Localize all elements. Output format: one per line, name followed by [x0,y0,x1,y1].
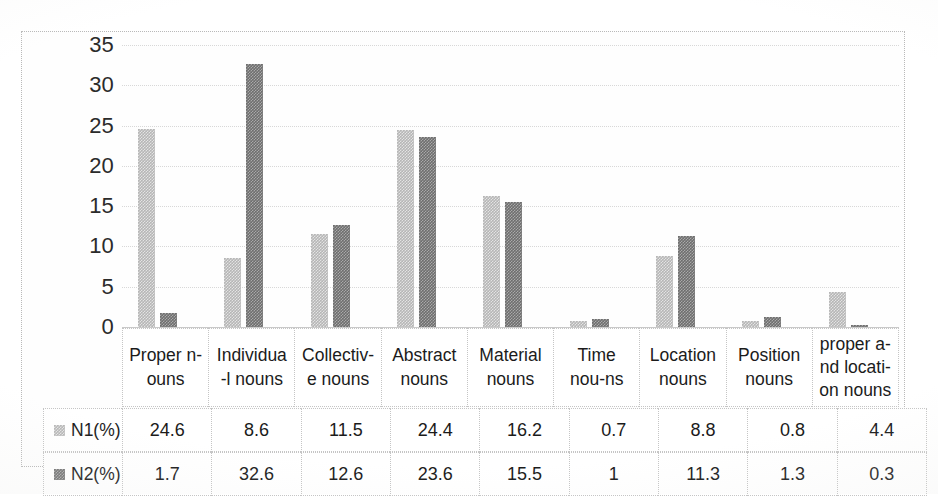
y-axis-tick-5: 5 [102,276,114,298]
bar-n1 [311,234,328,327]
table-cell: 4.4 [837,408,927,452]
table-cell: 11.5 [301,408,390,452]
plot-area [122,45,899,327]
table-cell: 12.6 [301,452,390,496]
data-table: N1(%)24.68.611.524.416.20.78.80.84.4N2(%… [43,408,927,496]
bars-layer [122,45,899,327]
table-row: N2(%)1.732.612.623.615.5111.31.30.3 [43,452,927,496]
legend-entry: N1(%) [43,408,122,452]
category-label-cell: Timenou-ns [553,328,639,407]
table-cell: 23.6 [390,452,479,496]
bar-n1 [397,130,414,327]
table-cell: 24.4 [390,408,479,452]
legend-label: N2(%) [71,464,121,485]
bar-n2 [333,225,350,327]
table-cell: 8.8 [658,408,747,452]
category-label-cell: Collectiv-e nouns [294,328,380,407]
bar-n2 [851,325,868,327]
bar-n1 [570,321,587,327]
table-cell: 1.3 [747,452,836,496]
bar-group [467,45,553,327]
bar-n2 [246,64,263,327]
bar-n2 [592,319,609,327]
category-label-cell: Materialnouns [467,328,553,407]
table-cell: 0.7 [569,408,658,452]
bar-group [381,45,467,327]
y-axis-tick-30: 30 [89,74,114,96]
x-axis-category-labels: Proper n-ounsIndividua-l nounsCollectiv-… [122,328,899,407]
table-cell: 0.8 [747,408,836,452]
category-label-cell: Proper n-ouns [122,328,208,407]
y-axis-tick-labels: 35302520151050 [62,45,114,327]
table-cell: 16.2 [479,408,568,452]
legend-entry: N2(%) [43,452,122,496]
bar-group [554,45,640,327]
table-cells: 24.68.611.524.416.20.78.80.84.4 [122,408,927,452]
bar-n1 [829,292,846,327]
bar-group [813,45,899,327]
bar-n1 [138,129,155,327]
table-cell: 1.7 [122,452,211,496]
bar-n1 [656,256,673,327]
dark-gray-swatch [54,469,65,480]
table-cell: 32.6 [211,452,300,496]
category-label-cell: Abstractnouns [381,328,467,407]
table-row: N1(%)24.68.611.524.416.20.78.80.84.4 [43,408,927,452]
bar-group [726,45,812,327]
bar-n2 [505,202,522,327]
table-cell: 15.5 [479,452,568,496]
table-cell: 8.6 [211,408,300,452]
legend-label: N1(%) [71,420,121,441]
table-cell: 11.3 [658,452,747,496]
bar-n1 [742,321,759,327]
y-axis-tick-15: 15 [89,195,114,217]
table-cell: 1 [569,452,658,496]
bar-n2 [764,317,781,327]
y-axis-tick-35: 35 [89,34,114,56]
bar-n1 [483,196,500,327]
bar-group [208,45,294,327]
category-label-cell: Locationnouns [639,328,725,407]
bar-group [295,45,381,327]
chart-container: 35302520151050 Proper n-ounsIndividua-l … [21,31,905,467]
y-axis-tick-10: 10 [89,235,114,257]
bar-n2 [678,236,695,327]
y-axis-tick-25: 25 [89,115,114,137]
table-cell: 24.6 [122,408,211,452]
y-axis-tick-0: 0 [102,316,114,338]
y-axis-tick-20: 20 [89,155,114,177]
bar-group [640,45,726,327]
bar-n2 [160,313,177,327]
bar-n1 [224,258,241,327]
category-label-cell: proper a-nd locati-on nouns [812,328,899,407]
category-label-cell: Individua-l nouns [208,328,294,407]
table-cell: 0.3 [837,452,927,496]
bar-n2 [419,137,436,327]
bar-group [122,45,208,327]
light-gray-swatch [54,425,65,436]
table-cells: 1.732.612.623.615.5111.31.30.3 [122,452,927,496]
category-label-cell: Positionnouns [726,328,812,407]
